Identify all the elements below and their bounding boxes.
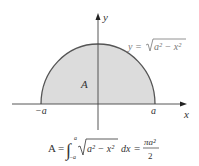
fraction-denominator: 2 bbox=[148, 151, 153, 161]
y-axis-label: y bbox=[102, 11, 108, 23]
curve-equation: y = a² − x² bbox=[127, 39, 186, 52]
semicircle-diagram: y x −a a A y = a² − x² A = ∫ a −a a² − x… bbox=[0, 0, 199, 166]
fraction-numerator: πa² bbox=[144, 137, 156, 147]
curve-label-radicand: a² − x² bbox=[154, 41, 182, 52]
region-label: A bbox=[80, 78, 88, 90]
integral-lower: −a bbox=[69, 154, 76, 160]
integral-upper: a bbox=[74, 135, 77, 141]
area-formula: A = ∫ a −a a² − x² dx = πa² 2 bbox=[48, 135, 159, 161]
integrand: a² − x² bbox=[87, 143, 115, 154]
tick-left-label: −a bbox=[35, 105, 47, 116]
curve-label-lhs: y = bbox=[127, 41, 142, 52]
equals-sign: = bbox=[134, 142, 140, 154]
x-axis-label: x bbox=[183, 108, 189, 120]
tick-right-label: a bbox=[151, 105, 156, 116]
x-axis-arrow-icon bbox=[180, 102, 187, 107]
y-axis-arrow-icon bbox=[96, 13, 101, 20]
formula-lhs: A = bbox=[48, 142, 64, 154]
dx-label: dx bbox=[121, 143, 131, 154]
